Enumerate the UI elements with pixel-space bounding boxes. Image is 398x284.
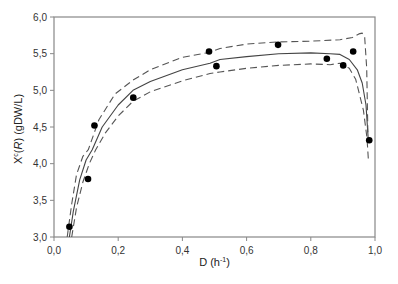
model-fit-line: [69, 53, 368, 237]
y-tick-label: 5,0: [33, 85, 47, 96]
x-tick-label: 0,0: [47, 245, 61, 256]
data-points: [66, 42, 372, 230]
y-axis-ticks: 3,03,54,04,55,05,56,0: [33, 12, 54, 243]
data-point: [66, 223, 73, 230]
x-tick-label: 0,2: [111, 245, 125, 256]
data-point: [91, 122, 98, 129]
data-point: [275, 42, 282, 49]
x-tick-label: 0,6: [240, 245, 254, 256]
data-point: [206, 48, 213, 55]
y-tick-label: 6,0: [33, 12, 47, 23]
data-point: [366, 137, 373, 144]
confidence-band-line: [72, 63, 369, 237]
y-tick-label: 4,0: [33, 158, 47, 169]
x-tick-label: 0,4: [175, 245, 189, 256]
data-point: [324, 56, 331, 63]
y-tick-label: 3,5: [33, 195, 47, 206]
y-tick-label: 5,5: [33, 48, 47, 59]
data-point: [130, 94, 137, 101]
data-point: [350, 48, 357, 55]
y-tick-label: 3,0: [33, 232, 47, 243]
y-axis-title: Xc(R) (gDW/L): [12, 94, 24, 164]
x-axis-title: D (h-1): [199, 256, 230, 268]
x-tick-label: 1,0: [368, 245, 382, 256]
x-tick-label: 0,8: [304, 245, 318, 256]
y-tick-label: 4,5: [33, 122, 47, 133]
x-axis-ticks: 0,00,20,40,60,81,0: [47, 237, 382, 256]
data-point: [85, 176, 92, 183]
data-point: [213, 63, 220, 70]
chart-canvas: 3,03,54,04,55,05,56,0 0,00,20,40,60,81,0…: [0, 0, 398, 284]
data-point: [340, 62, 347, 69]
